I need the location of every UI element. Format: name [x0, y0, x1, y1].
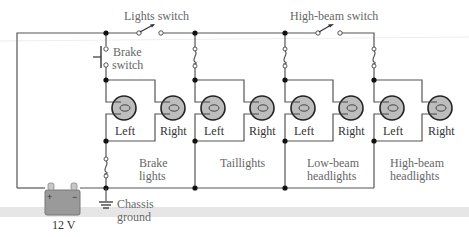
bulb-icon [161, 96, 185, 120]
group-label-tail-1: Taillights [220, 156, 265, 170]
bulbs [112, 96, 452, 120]
circuit-diagram: Lights switch High-beam switch Brake swi… [0, 0, 469, 237]
bulb-icon [250, 96, 274, 120]
high-beam-switch-label: High-beam switch [290, 9, 378, 23]
bulb-icon [339, 96, 363, 120]
battery-label: 12 V [52, 218, 76, 232]
bulb-icon [291, 96, 315, 120]
group-label-low-1: Low-beam [307, 156, 360, 170]
bulb-icon [428, 96, 452, 120]
fuse-brake [104, 141, 108, 188]
group-label-high-2: headlights [390, 169, 440, 183]
bulb-label-high-right: Right [428, 124, 455, 138]
ground-icon [99, 188, 113, 208]
bulb-icon [380, 96, 404, 120]
faint-line [0, 37, 469, 41]
bulb-label-tail-right: Right [249, 124, 276, 138]
bulb-label-high-left: Left [383, 124, 404, 138]
fuse-high-beam [372, 47, 376, 80]
lights-switch-label: Lights switch [124, 9, 189, 23]
bulb-icon [112, 96, 136, 120]
group-label-brake-1: Brake [139, 156, 168, 170]
group-label-low-2: headlights [307, 169, 357, 183]
ground-label-1: Chassis [117, 197, 154, 211]
bulb-label-brake-right: Right [160, 124, 187, 138]
bulb-label-tail-left: Left [204, 124, 225, 138]
bulb-label-low-right: Right [338, 124, 365, 138]
bulb-label-low-left: Left [294, 124, 315, 138]
brake-switch-label-2: switch [112, 58, 143, 72]
fuse-low-beam [283, 33, 287, 80]
battery-minus: − [72, 192, 77, 202]
lights-switch[interactable] [137, 24, 163, 35]
bulb-label-brake-left: Left [115, 124, 136, 138]
battery-plus: + [47, 192, 52, 202]
group-label-high-1: High-beam [390, 156, 445, 170]
ground-label-2: ground [117, 210, 151, 224]
high-beam-switch[interactable] [316, 24, 342, 35]
fuse-taillights [193, 33, 197, 80]
bulb-icon [201, 96, 225, 120]
brake-switch-label-1: Brake [113, 45, 142, 59]
group-label-brake-2: lights [139, 169, 166, 183]
